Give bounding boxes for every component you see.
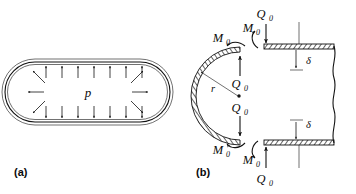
figure-background xyxy=(0,0,356,194)
engineering-figure: p (a) r xyxy=(0,0,356,194)
cylinder-wall-lower xyxy=(264,140,334,145)
panel-b-tag: (b) xyxy=(196,166,210,178)
cylinder-wall-upper xyxy=(264,44,334,49)
figure-root: p (a) r xyxy=(0,0,356,194)
cylinder-wall-lower-band xyxy=(264,140,334,145)
shear-label-bottom-outer-Q: Q xyxy=(256,172,265,186)
moment-label-top-head-sub: 0 xyxy=(226,38,230,47)
shear-label-top-inner-Q: Q xyxy=(231,77,240,91)
panel-a-tag: (a) xyxy=(14,166,28,178)
shear-label-top-outer-sub: 0 xyxy=(269,14,273,23)
moment-label-top-cylinder-M: M xyxy=(242,21,254,35)
moment-label-bottom-head-sub: 0 xyxy=(226,150,230,159)
moment-label-top-cylinder-sub: 0 xyxy=(256,28,260,37)
pressure-label: p xyxy=(84,85,92,100)
shear-label-top-outer-Q: Q xyxy=(256,7,265,21)
moment-label-bottom-cylinder-M: M xyxy=(242,153,254,167)
cylinder-wall-upper-band xyxy=(264,44,334,49)
moment-label-bottom-head-M: M xyxy=(212,143,224,157)
shear-label-top-inner-sub: 0 xyxy=(244,84,248,93)
shear-label-bottom-inner-Q: Q xyxy=(231,101,240,115)
moment-label-bottom-cylinder-sub: 0 xyxy=(256,160,260,169)
shear-label-bottom-outer-sub: 0 xyxy=(269,179,273,188)
shear-label-bottom-inner-sub: 0 xyxy=(244,108,248,117)
moment-label-top-head-M: M xyxy=(212,31,224,45)
